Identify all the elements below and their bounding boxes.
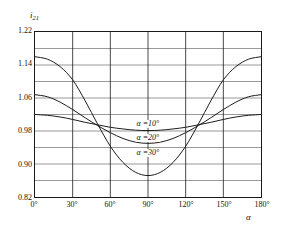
x-tick-label: 0°: [19, 201, 49, 209]
x-tick-label: 120°: [171, 201, 201, 209]
x-tick-label: 60°: [95, 201, 125, 209]
chart-figure: i21 α 0.820.900.981.061.141.22 0°30°60°9…: [0, 0, 284, 242]
curve-label-1: α =10°: [136, 120, 161, 128]
curve-label-2: α =20°: [136, 134, 161, 142]
x-tick-label: 90°: [133, 201, 163, 209]
curve-label-3: α =30°: [136, 149, 161, 157]
data-curves: [35, 32, 261, 197]
plot-area: [34, 31, 262, 198]
x-tick-label: 150°: [209, 201, 239, 209]
x-tick-label: 30°: [57, 201, 87, 209]
x-tick-label: 180°: [247, 201, 277, 209]
